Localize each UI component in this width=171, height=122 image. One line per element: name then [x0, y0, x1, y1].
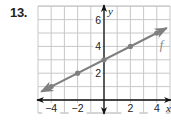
function-label-f: f — [160, 38, 165, 52]
data-point — [154, 30, 159, 35]
data-point — [75, 71, 80, 76]
y-tick-label: 2 — [95, 67, 101, 79]
y-tick-label: 4 — [95, 40, 101, 52]
x-tick-label: 4 — [154, 102, 160, 114]
x-tick-label: −2 — [72, 102, 84, 114]
line-graph: −4−224246xy f — [0, 0, 171, 122]
data-point — [101, 57, 106, 62]
y-tick-label: 6 — [95, 14, 101, 26]
y-axis-label: y — [107, 5, 113, 17]
data-point — [49, 84, 54, 89]
x-tick-label: −4 — [45, 102, 57, 114]
x-axis-label: x — [165, 102, 171, 114]
data-point — [128, 44, 133, 49]
x-tick-label: 2 — [127, 102, 133, 114]
